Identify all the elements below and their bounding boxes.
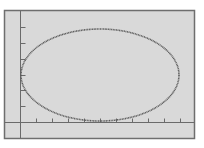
graph-screen — [0, 0, 204, 148]
screen-background — [5, 11, 195, 139]
